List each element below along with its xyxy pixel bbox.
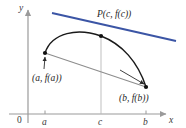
tick-label-a: a	[42, 117, 47, 127]
point-a-label: (a, f(a))	[32, 73, 62, 84]
point-a-dot	[43, 51, 47, 55]
origin-label: 0	[17, 115, 22, 125]
point-b-dot	[144, 85, 148, 89]
axes-group	[9, 10, 166, 123]
point-b-label: (b, f(b))	[119, 93, 149, 104]
tick-label-c: c	[98, 117, 103, 127]
y-axis-label: y	[18, 3, 24, 13]
point-c-dot	[99, 34, 103, 38]
x-axis-label: x	[168, 115, 174, 125]
point-c-label: P(c, f(c))	[96, 9, 131, 20]
mean-value-theorem-figure: y x 0 a c b P(c, f(c)) (a, f(a)) (b, f(b…	[0, 0, 186, 128]
tick-label-b: b	[143, 117, 148, 127]
figure-container: y x 0 a c b P(c, f(c)) (a, f(a)) (b, f(b…	[0, 0, 186, 128]
arrow-to-point-a	[44, 57, 45, 69]
